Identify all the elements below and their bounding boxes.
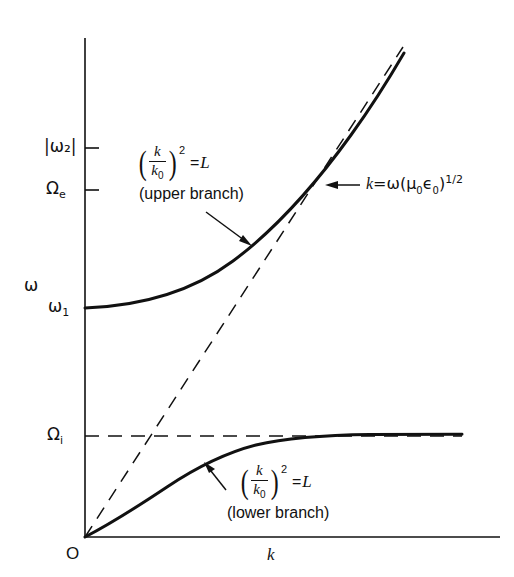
y-tick-label-omega1: ω1 xyxy=(48,298,69,318)
upper-branch-formula: ( k k0 ) 2 = L xyxy=(137,144,210,182)
light-line-mu: μ xyxy=(406,174,416,193)
close-paren: ) xyxy=(270,468,278,496)
lower-branch-caption: (lower branch) xyxy=(227,505,329,521)
formula-rhs-L: L xyxy=(200,154,209,171)
formula-equals: = xyxy=(190,155,199,171)
light-line-leader-arrowhead xyxy=(325,181,338,189)
formula-exponent: 2 xyxy=(179,145,185,156)
y-axis-label: ω xyxy=(24,277,38,294)
fraction-denominator: k0 xyxy=(149,163,165,182)
upper-branch-caption: (upper branch) xyxy=(139,186,244,202)
open-paren: ( xyxy=(241,468,249,496)
fraction-numerator: k xyxy=(152,144,163,160)
y-tick-label-omega-i: Ωi xyxy=(47,426,63,446)
y-axis-tick-marks xyxy=(85,148,99,190)
upper-branch-leader-arrowhead xyxy=(239,235,252,246)
lower-branch-annotation: ( k k0 ) 2 = L (lower branch) xyxy=(239,463,329,521)
y-tick-label-omega2: |ω₂| xyxy=(44,138,77,155)
fraction-k-over-k0: k k0 xyxy=(149,144,165,182)
light-line-exponent: 1/2 xyxy=(445,173,463,186)
leader-arrows xyxy=(204,181,360,490)
upper-branch-curve xyxy=(85,53,404,308)
lower-branch-formula: ( k k0 ) 2 = L xyxy=(239,463,312,501)
formula-equals: = xyxy=(292,474,301,490)
fraction-numerator: k xyxy=(254,463,265,479)
light-line-omega: ω xyxy=(387,174,400,193)
y-tick-label-omega-e: Ωe xyxy=(46,180,66,200)
light-line-equals: = xyxy=(373,174,386,193)
fraction-denominator: k0 xyxy=(251,482,267,501)
close-paren: ) xyxy=(168,149,176,177)
upper-branch-annotation: ( k k0 ) 2 = L (upper branch) xyxy=(137,144,244,202)
light-line-annotation: k=ω(μ0ϵ0)1/2 xyxy=(366,174,463,196)
origin-label: O xyxy=(66,545,79,562)
formula-rhs-L: L xyxy=(302,473,311,490)
dispersion-diagram-figure: |ω₂| Ωe ω1 Ωi ω k O ( k k0 ) 2 = L (uppe… xyxy=(0,0,514,577)
light-line-epsilon: ϵ xyxy=(423,174,433,193)
x-axis-label: k xyxy=(267,546,275,563)
formula-exponent: 2 xyxy=(281,464,287,475)
fraction-k-over-k0: k k0 xyxy=(251,463,267,501)
open-paren: ( xyxy=(139,149,147,177)
